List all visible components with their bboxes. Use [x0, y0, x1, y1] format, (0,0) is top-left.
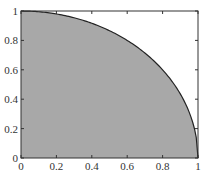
quarter-circle-chart: 00.20.40.60.8100.20.40.60.81: [0, 0, 208, 177]
x-tick-label: 0.8: [156, 160, 170, 172]
y-tick-label: 0.2: [4, 123, 18, 135]
x-tick-label: 0.6: [120, 160, 134, 172]
y-tick-label: 0.4: [4, 93, 18, 105]
y-tick-label: 0.6: [4, 64, 18, 76]
y-tick-label: 0: [13, 152, 19, 164]
y-tick-label: 1: [13, 5, 19, 17]
x-tick-label: 0: [18, 160, 24, 172]
filled-area: [21, 11, 198, 158]
x-tick-label: 1: [195, 160, 201, 172]
x-tick-label: 0.4: [85, 160, 99, 172]
y-tick-label: 0.8: [4, 34, 18, 46]
x-tick-label: 0.2: [50, 160, 64, 172]
